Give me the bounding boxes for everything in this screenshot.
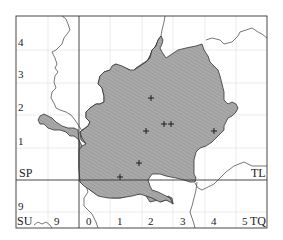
x-tick-label: 5	[242, 215, 248, 227]
x-tick-label: 0	[86, 215, 92, 227]
county-area-main	[79, 36, 238, 204]
y-tick-label: 3	[18, 68, 24, 80]
y-tick-label: 1	[18, 135, 24, 147]
square-label-su: SU	[17, 214, 33, 228]
square-label-sp: SP	[19, 166, 33, 180]
y-tick-label: 9	[18, 200, 24, 212]
x-tick-label: 3	[180, 215, 186, 227]
x-tick-label: 4	[211, 215, 217, 227]
x-axis-ticks: 9012345	[54, 215, 248, 227]
y-axis-ticks: 43219	[18, 36, 24, 212]
square-label-tl: TL	[251, 166, 266, 180]
y-tick-label: 4	[18, 36, 24, 48]
x-tick-label: 9	[54, 215, 60, 227]
y-tick-label: 2	[18, 101, 24, 113]
square-label-tq: TQ	[250, 214, 266, 228]
x-tick-label: 2	[148, 215, 154, 227]
distribution-map: SP TL SU TQ 43219 9012345	[0, 0, 283, 240]
x-tick-label: 1	[117, 215, 123, 227]
